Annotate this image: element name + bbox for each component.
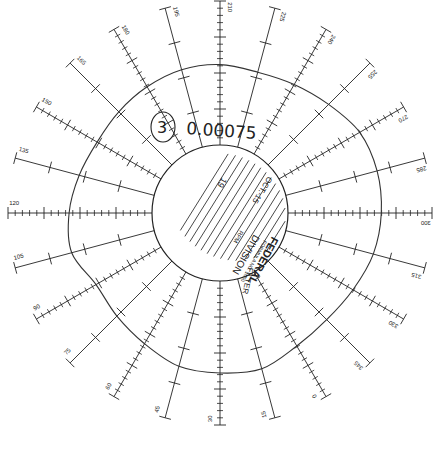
polar-chart-canvas: 2102252402552702853003153303450153045607… <box>0 0 440 451</box>
axis-spoke: 255 <box>268 59 378 165</box>
circled-number: 3 <box>157 118 167 137</box>
axis-label: 345 <box>352 359 364 371</box>
axis-spoke: 345 <box>268 261 374 371</box>
axis-label: 210 <box>227 2 233 13</box>
axis-label: 105 <box>13 252 25 261</box>
axis-label: 150 <box>41 96 53 107</box>
axis-label: 270 <box>397 114 409 125</box>
axis-spoke: 330 <box>279 247 407 330</box>
axis-label: 285 <box>415 165 427 174</box>
axis-label: 315 <box>410 271 422 280</box>
axis-label: 0 <box>311 393 318 399</box>
polar-chart: 2102252402552702853003153303450153045607… <box>0 0 440 451</box>
handwritten-value: 0.00075 <box>186 118 258 143</box>
axis-spoke: 105 <box>13 231 154 274</box>
axis-label: 240 <box>326 34 337 46</box>
axis-spoke: 120 <box>8 200 152 219</box>
axis-spoke: 165 <box>66 55 172 165</box>
axis-spoke: 300 <box>288 207 432 226</box>
axis-label: 165 <box>76 55 88 67</box>
axis-label: 75 <box>63 347 72 356</box>
axis-spoke: 60 <box>104 272 186 400</box>
axis-label: 15 <box>260 410 268 419</box>
footer-text <box>120 436 380 440</box>
axis-label: 45 <box>153 405 161 414</box>
axis-spoke: 315 <box>286 231 427 280</box>
axis-spoke: 30 <box>207 281 226 425</box>
axis-label: 195 <box>172 6 181 18</box>
axis-label: 180 <box>121 24 132 36</box>
center-disk: FEDERAL FORMULA NO. 1000 DIVISION RPM FI… <box>152 145 288 295</box>
axis-label: 120 <box>9 200 20 206</box>
axis-label: 225 <box>278 11 287 23</box>
axis-label: 135 <box>18 146 30 155</box>
axis-spoke: 15 <box>238 279 281 420</box>
axis-spoke: 135 <box>14 146 155 195</box>
axis-label: 330 <box>387 319 399 330</box>
axis-label: 90 <box>32 303 41 312</box>
axis-spoke: 75 <box>63 261 172 367</box>
axis-label: 30 <box>207 415 213 422</box>
axis-spoke: 285 <box>286 152 427 195</box>
axis-spoke: 150 <box>33 96 161 179</box>
handwritten-annotation: 3 0.00075 <box>151 112 257 143</box>
axis-spoke: 240 <box>254 26 337 154</box>
axis-spoke: 45 <box>153 279 202 420</box>
axis-spoke: 0 <box>254 272 331 400</box>
axis-label: 255 <box>366 69 378 81</box>
axis-label: 60 <box>104 381 113 390</box>
axis-label: 300 <box>420 220 431 226</box>
